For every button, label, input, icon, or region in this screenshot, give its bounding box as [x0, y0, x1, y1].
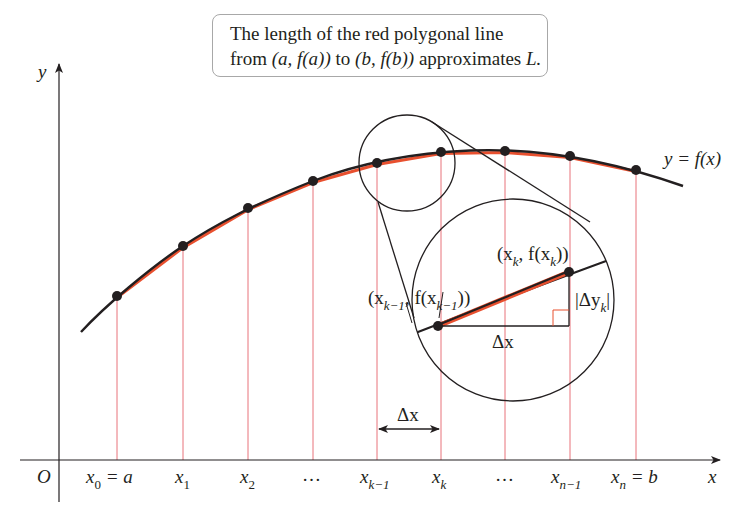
tick-xn: xn = b — [611, 467, 658, 486]
axes — [20, 64, 720, 502]
delta-x-label: Δx — [397, 405, 419, 424]
inset-point-k — [564, 267, 574, 277]
tick-x0: x0 = a — [86, 467, 133, 486]
caption-line-1: The length of the red polygonal line — [230, 21, 547, 46]
tick-xk-1: xk−1 — [360, 467, 389, 486]
inset-point-prev — [433, 321, 443, 331]
tick-xn-1: xn−1 — [551, 467, 581, 486]
inset-label-k-point: (xk, f(xk)) — [497, 244, 569, 263]
inset-label-dx: Δx — [492, 332, 514, 351]
inset-label-prev-point: (xk−1, f(xk−1)) — [368, 288, 470, 307]
y-axis-label: y — [38, 62, 46, 81]
tick-x2: x2 — [240, 467, 255, 486]
x-axis-label: x — [708, 467, 716, 486]
curve-label: y = f(x) — [664, 149, 721, 168]
tick-ellipsis-1: … — [302, 465, 321, 484]
caption-box: The length of the red polygonal line fro… — [212, 14, 548, 77]
diagram-canvas — [0, 0, 747, 515]
tick-xk: xk — [432, 467, 446, 486]
tick-x1: x1 — [175, 467, 190, 486]
origin-label: O — [37, 467, 51, 486]
caption-line-2: from (a, f(a)) to (b, f(b)) approximates… — [230, 46, 547, 71]
tick-ellipsis-2: … — [495, 465, 514, 484]
inset-label-dy: |Δyk| — [575, 290, 610, 309]
